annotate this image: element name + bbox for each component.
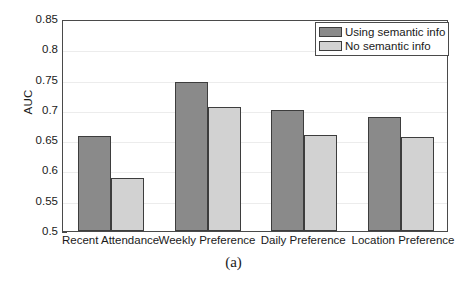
bar bbox=[208, 107, 241, 231]
y-axis-tick-label: 0.8 bbox=[18, 43, 58, 55]
y-axis-tick-label: 0.6 bbox=[18, 164, 58, 176]
x-axis-tick-label: Recent Attendance bbox=[62, 234, 159, 246]
bar bbox=[111, 178, 144, 231]
legend-item: No semantic info bbox=[319, 39, 445, 53]
bar bbox=[304, 135, 337, 231]
y-axis-tick-label: 0.85 bbox=[18, 13, 58, 25]
legend-swatch-icon bbox=[319, 41, 342, 51]
x-axis-tick-label: Weekly Preference bbox=[159, 234, 256, 246]
figure-caption: (a) bbox=[0, 254, 467, 271]
legend-label: No semantic info bbox=[345, 40, 431, 53]
gridline bbox=[63, 82, 447, 83]
bar bbox=[368, 117, 401, 231]
x-axis-tick-label: Daily Preference bbox=[255, 234, 352, 246]
legend-item: Using semantic info bbox=[319, 25, 445, 39]
figure-panel-a: AUC 0.50.550.60.650.70.750.80.85 Recent … bbox=[0, 0, 467, 284]
y-axis-tick-label: 0.65 bbox=[18, 134, 58, 146]
y-axis-tick-label: 0.75 bbox=[18, 74, 58, 86]
y-axis-tick-label: 0.5 bbox=[18, 225, 58, 237]
bar bbox=[78, 136, 111, 231]
y-axis-tick-mark bbox=[62, 232, 67, 233]
bar bbox=[175, 82, 208, 231]
bar bbox=[271, 110, 304, 231]
y-axis-tick-label: 0.55 bbox=[18, 195, 58, 207]
legend-label: Using semantic info bbox=[345, 26, 445, 39]
x-axis-tick-label: Location Preference bbox=[352, 234, 449, 246]
chart-legend: Using semantic infoNo semantic info bbox=[315, 22, 449, 56]
legend-swatch-icon bbox=[319, 27, 342, 37]
y-axis-tick-label: 0.7 bbox=[18, 104, 58, 116]
gridline bbox=[63, 112, 447, 113]
bar bbox=[401, 137, 434, 231]
